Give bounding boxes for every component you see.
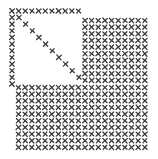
cross-stitch-icon (129, 105, 133, 109)
cross-stitch-icon (36, 105, 40, 109)
cross-stitch-icon (136, 125, 141, 130)
cross-stitch-icon (89, 105, 94, 110)
cross-stitch-icon (96, 58, 100, 62)
cross-stitch-icon (43, 112, 47, 116)
cross-stitch-icon (129, 78, 133, 82)
cross-stitch-icon (103, 38, 107, 42)
cross-stitch-icon (116, 92, 120, 96)
cross-stitch-icon (16, 125, 21, 130)
cross-stitch-icon (136, 132, 140, 136)
cross-stitch-icon (123, 132, 127, 136)
cross-stitch-icon (76, 105, 80, 109)
cross-stitch-icon (37, 35, 42, 40)
cross-stitch-icon (36, 138, 40, 142)
cross-stitch-icon (30, 85, 34, 89)
cross-stitch-icon (123, 45, 127, 49)
cross-stitch-icon (116, 112, 120, 116)
cross-stitch-icon (136, 38, 141, 43)
cross-stitch-icon (136, 25, 140, 29)
cross-stitch-icon (142, 112, 147, 117)
cross-stitch-icon (76, 145, 80, 149)
cross-stitch-icon (77, 75, 81, 79)
cross-stitch-icon (109, 25, 114, 30)
cross-stitch-icon (129, 58, 133, 62)
cross-stitch-icon (143, 78, 147, 82)
cross-stitch-icon (50, 125, 54, 129)
cross-stitch-icon (89, 78, 94, 83)
cross-stitch-icon (83, 112, 87, 116)
cross-stitch-icon (103, 112, 107, 116)
cross-stitch-icon (122, 92, 127, 97)
cross-stitch-icon (129, 92, 133, 96)
cross-stitch-icon (36, 132, 40, 136)
cross-stitch-icon (56, 92, 61, 97)
cross-stitch-icon (23, 105, 28, 110)
cross-stitch-icon (50, 92, 54, 96)
cross-stitch-icon (43, 132, 47, 136)
cross-stitch-icon (116, 105, 121, 110)
cross-stitch-icon (63, 132, 67, 136)
cross-stitch-icon (89, 99, 93, 103)
cross-stitch-icon (136, 85, 140, 89)
cross-stitch-icon (29, 112, 34, 117)
cross-stitch-icon (103, 138, 108, 143)
cross-stitch-icon (96, 38, 100, 42)
cross-stitch-icon (30, 119, 34, 123)
cross-stitch-icon (136, 92, 140, 96)
cross-stitch-icon (43, 139, 47, 143)
cross-stitch-icon (83, 25, 88, 30)
cross-stitch-icon (110, 38, 114, 42)
cross-stitch-icon (16, 85, 20, 89)
cross-stitch-icon (83, 58, 87, 62)
cross-stitch-icon (96, 65, 100, 69)
cross-stitch-icon (102, 18, 107, 23)
cross-stitch-icon (123, 51, 128, 56)
cross-stitch-icon (143, 85, 148, 90)
cross-stitch-icon (83, 71, 88, 76)
cross-stitch-icon (49, 112, 54, 117)
cross-stitch-icon (23, 99, 27, 103)
cross-stitch-icon (103, 125, 107, 129)
cross-stitch-icon (89, 31, 94, 36)
cross-stitch-icon (24, 22, 28, 26)
cross-stitch-icon (143, 38, 147, 42)
cross-stitch-icon (56, 138, 61, 143)
cross-stitch-icon (143, 65, 147, 69)
cross-stitch-icon (36, 98, 41, 103)
cross-stitch-icon (50, 105, 54, 109)
cross-stitch-icon (136, 58, 140, 62)
cross-stitch-icon (44, 42, 48, 46)
cross-stitch-icon (16, 112, 20, 116)
cross-stitch-icon (10, 49, 14, 53)
cross-stitch-icon (129, 18, 134, 23)
cross-stitch-icon (110, 105, 114, 109)
cross-stitch-icon (16, 9, 20, 13)
cross-stitch-icon (109, 71, 114, 76)
cross-stitch-icon (56, 132, 60, 136)
cross-stitch-icon (96, 119, 100, 123)
cross-stitch-icon (50, 139, 54, 143)
cross-stitch-icon (63, 92, 67, 96)
cross-stitch-icon (30, 125, 34, 129)
cross-stitch-icon (56, 145, 60, 149)
cross-stitch-icon (89, 145, 93, 149)
cross-stitch-icon (90, 119, 94, 123)
cross-stitch-icon (83, 18, 88, 23)
cross-stitch-icon (116, 85, 121, 90)
cross-stitch-icon (90, 58, 94, 62)
cross-stitch-icon (16, 139, 20, 143)
cross-stitch-icon (143, 119, 147, 123)
cross-stitch-icon (103, 58, 108, 63)
cross-stitch-icon (90, 132, 94, 136)
cross-stitch-icon (76, 138, 81, 143)
cross-stitch-icon (56, 118, 61, 123)
bottom-block (16, 85, 147, 150)
cross-stitch-icon (56, 55, 61, 60)
cross-stitch-icon (63, 62, 67, 66)
cross-stitch-icon (36, 112, 40, 116)
cross-stitch-icon (16, 119, 20, 123)
right-block (83, 18, 148, 83)
cross-stitch-icon (129, 25, 134, 30)
cross-stitch-icon (96, 25, 100, 29)
cross-stitch-icon (129, 125, 133, 129)
